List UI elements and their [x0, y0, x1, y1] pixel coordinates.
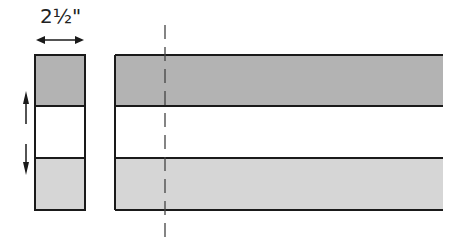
- arrow-down-icon: [23, 144, 29, 175]
- cut-segment: [35, 55, 85, 210]
- width-arrow-icon: [36, 36, 84, 44]
- arrow-up-icon: [23, 91, 29, 124]
- strip-set: [115, 55, 443, 210]
- strip-piecing-diagram: [0, 0, 463, 248]
